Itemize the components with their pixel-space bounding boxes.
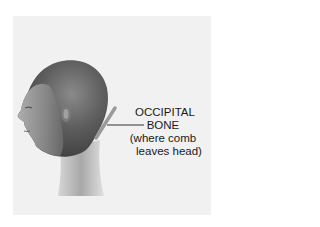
label-line-1: OCCIPITAL [130, 106, 200, 119]
label-line-4: leaves head) [132, 145, 206, 158]
label-line-2: BONE [138, 119, 188, 132]
label-line-3: (where comb [126, 132, 200, 145]
